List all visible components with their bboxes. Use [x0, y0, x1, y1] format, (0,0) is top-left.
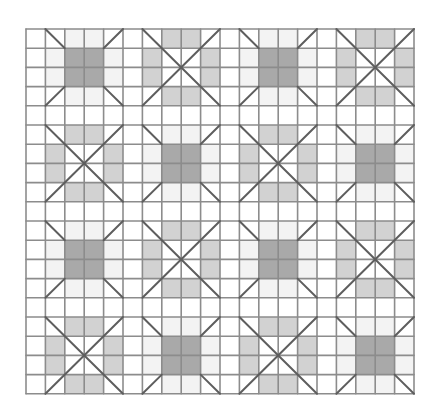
corner-diagonal — [239, 279, 258, 298]
corner-diagonal — [45, 279, 64, 298]
corner-diagonal — [45, 87, 64, 106]
corner-diagonal — [298, 279, 317, 298]
corner-diagonal — [239, 221, 258, 240]
corner-diagonal — [298, 221, 317, 240]
corner-diagonal — [142, 317, 161, 336]
corner-diagonal — [201, 125, 220, 144]
corner-diagonal — [395, 375, 414, 394]
corner-diagonal — [395, 125, 414, 144]
corner-diagonal — [336, 317, 355, 336]
corner-diagonal — [142, 125, 161, 144]
corner-diagonal — [104, 221, 123, 240]
corner-diagonal — [336, 125, 355, 144]
corner-diagonal — [395, 317, 414, 336]
quilt-pattern-diagram — [0, 0, 435, 419]
corner-diagonal — [336, 375, 355, 394]
corner-diagonal — [336, 183, 355, 202]
corner-diagonal — [239, 29, 258, 48]
corner-diagonal — [239, 87, 258, 106]
corner-diagonal — [142, 183, 161, 202]
corner-diagonal — [104, 87, 123, 106]
corner-diagonal — [201, 317, 220, 336]
corner-diagonal — [201, 183, 220, 202]
corner-diagonal — [104, 279, 123, 298]
grid-lines — [26, 29, 414, 394]
corner-diagonal — [395, 183, 414, 202]
corner-diagonal — [142, 375, 161, 394]
corner-diagonal — [104, 29, 123, 48]
corner-diagonal — [45, 221, 64, 240]
corner-diagonal — [298, 29, 317, 48]
corner-diagonal — [201, 375, 220, 394]
corner-diagonal — [298, 87, 317, 106]
corner-diagonal — [45, 29, 64, 48]
